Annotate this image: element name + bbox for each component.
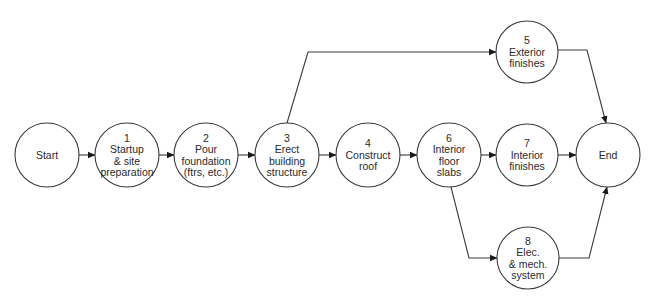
- node-label: floor: [439, 155, 460, 167]
- node-label: (ftrs, etc.): [184, 166, 228, 178]
- node-number: 2: [203, 132, 209, 144]
- node-label: & site: [114, 155, 140, 167]
- node-n5: 5Exteriorfinishes: [496, 21, 558, 83]
- node-number: 8: [525, 235, 531, 247]
- node-label: building: [269, 155, 305, 167]
- node-label: Construct: [346, 149, 391, 161]
- node-n2: 2Pourfoundation(ftrs, etc.): [174, 123, 238, 187]
- node-label: system: [511, 269, 545, 281]
- node-label: slabs: [437, 166, 462, 178]
- node-label: preparation: [100, 166, 153, 178]
- node-label: Start: [36, 149, 58, 161]
- node-number: 5: [524, 34, 530, 46]
- project-network-diagram: Start1Startup& sitepreparation2Pourfound…: [0, 0, 653, 304]
- node-label: finishes: [509, 57, 545, 69]
- arrow-n5-to-end: [558, 50, 606, 123]
- node-label: Startup: [110, 143, 144, 155]
- node-number: 3: [284, 132, 290, 144]
- node-number: 1: [124, 132, 130, 144]
- node-n7: 7Interiorfinishes: [496, 124, 558, 186]
- node-label: roof: [359, 160, 377, 172]
- node-end: End: [576, 123, 640, 187]
- arrow-n8-to-end: [559, 187, 607, 258]
- node-number: 7: [524, 137, 530, 149]
- node-n3: 3Erectbuildingstructure: [255, 123, 319, 187]
- node-number: 4: [365, 137, 371, 149]
- node-n8: 8Elec.& mech.system: [497, 227, 559, 289]
- arrow-n6-to-n8: [451, 187, 497, 258]
- node-label: Interior: [511, 149, 544, 161]
- node-start: Start: [15, 123, 79, 187]
- node-label: finishes: [509, 160, 545, 172]
- node-number: 6: [446, 132, 452, 144]
- node-label: Erect: [275, 143, 300, 155]
- node-label: foundation: [181, 155, 230, 167]
- node-n4: 4Constructroof: [336, 123, 400, 187]
- node-label: Interior: [433, 143, 466, 155]
- node-n1: 1Startup& sitepreparation: [95, 123, 159, 187]
- node-label: Exterior: [509, 46, 546, 58]
- node-label: Elec.: [516, 246, 539, 258]
- node-label: End: [599, 149, 618, 161]
- node-label: & mech.: [509, 258, 548, 270]
- node-n6: 6Interiorfloorslabs: [417, 123, 481, 187]
- arrow-n3-to-n5: [287, 52, 496, 123]
- node-label: structure: [267, 166, 308, 178]
- node-label: Pour: [195, 143, 218, 155]
